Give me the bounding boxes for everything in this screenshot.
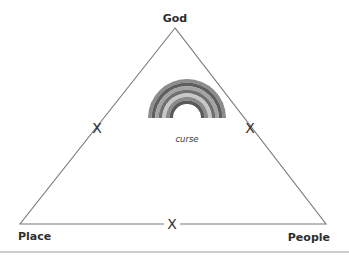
rainbow-curse-arc (148, 79, 226, 118)
edge-mark-right-x: X (245, 120, 255, 136)
rainbow-label-curse: curse (175, 134, 198, 144)
vertex-label-place: Place (18, 230, 51, 243)
triangle-outline (20, 28, 326, 224)
god-place-people-triangle-diagram: God Place People X X X curse (0, 0, 349, 259)
vertex-label-god: God (163, 12, 187, 25)
vertex-label-people: People (288, 231, 330, 244)
edge-mark-left-x: X (92, 120, 102, 136)
edge-mark-bottom-x: X (167, 216, 177, 232)
triangle-edges (20, 28, 326, 224)
